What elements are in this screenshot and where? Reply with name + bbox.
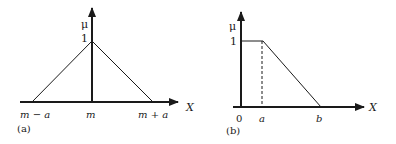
x-tick-a: a (259, 113, 265, 124)
x-axis-label-b: X (368, 101, 378, 114)
x-tick-m: m (86, 109, 95, 120)
shoulder-curve (241, 41, 321, 107)
caption-a: (a) (17, 123, 31, 134)
x-tick-m-plus-a: m + a (138, 109, 168, 120)
membership-function-diagram: μ 1 m − a m m + a X (a) μ 1 0 a b X (b) (0, 0, 396, 144)
x-axis-label-a: X (185, 101, 195, 114)
y-axis-label-b: μ (229, 20, 236, 33)
x-tick-0: 0 (236, 113, 242, 124)
caption-b: (b) (226, 125, 240, 136)
y-tick-1-a: 1 (81, 32, 88, 45)
y-tick-1-b: 1 (230, 35, 237, 48)
y-axis-label-a: μ (81, 18, 88, 31)
x-tick-b: b (316, 113, 322, 124)
panel-b: μ 1 0 a b X (b) (226, 12, 378, 136)
panel-a: μ 1 m − a m m + a X (a) (17, 8, 195, 134)
x-tick-m-minus-a: m − a (20, 109, 50, 120)
